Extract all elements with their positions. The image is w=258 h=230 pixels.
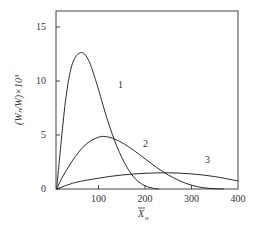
x-tick-label-400: 400 [231,193,246,204]
chart-canvas: 0 5 10 15 (Wₙ/W)×10³ 100 200 300 400 X n… [0,0,258,230]
y-tick-label-0: 0 [41,183,46,194]
x-tick-label-200: 200 [138,193,153,204]
x-axis-title-main: X [137,208,145,219]
x-axis-title-sub: n [145,214,149,222]
y-tick-label-10: 10 [36,75,46,86]
plot-frame [56,11,238,189]
y-axis: 0 5 10 15 (Wₙ/W)×10³ [13,21,60,194]
x-axis-title: X n [137,208,149,222]
x-tick-label-100: 100 [91,193,106,204]
x-tick-label-300: 300 [184,193,199,204]
curve-2-label: 2 [143,138,148,149]
curve-1-label: 1 [118,79,123,90]
y-axis-title: (Wₙ/W)×10³ [13,74,25,125]
curve-1 [57,53,159,189]
x-axis: 100 200 300 400 X n [91,185,246,222]
y-tick-label-15: 15 [36,21,46,32]
curve-3-label: 3 [205,154,210,165]
y-tick-label-5: 5 [41,129,46,140]
